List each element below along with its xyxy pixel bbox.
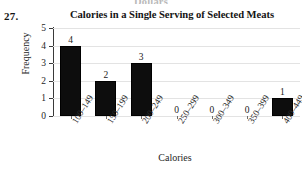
gridline: [53, 28, 300, 29]
bar-value-label: 3: [131, 52, 151, 62]
y-tick-mark: [49, 81, 53, 82]
bar-value-label: 4: [61, 35, 81, 45]
bar-value-label: 1: [272, 87, 292, 97]
y-tick-label: 5: [34, 24, 46, 33]
y-tick-label: 1: [34, 94, 46, 103]
gridline: [53, 63, 300, 64]
y-tick-mark: [49, 98, 53, 99]
y-tick-mark: [49, 63, 53, 64]
bar-value-label: 2: [96, 70, 116, 80]
y-tick-label: 4: [34, 42, 46, 51]
gridline: [53, 46, 300, 47]
gridline: [53, 81, 300, 82]
y-tick-label: 2: [34, 77, 46, 86]
y-tick-label: 0: [34, 112, 46, 121]
x-axis-label: Calories: [130, 152, 220, 163]
previous-figure-caption: Dollars: [0, 0, 302, 4]
y-tick-mark: [49, 28, 53, 29]
y-tick-mark: [49, 46, 53, 47]
y-axis-label: Frequency: [20, 19, 31, 89]
y-tick-label: 3: [34, 59, 46, 68]
chart-title: Calories in a Single Serving of Selected…: [46, 9, 298, 20]
problem-number: 27.: [4, 10, 18, 22]
y-tick-mark: [49, 116, 53, 117]
